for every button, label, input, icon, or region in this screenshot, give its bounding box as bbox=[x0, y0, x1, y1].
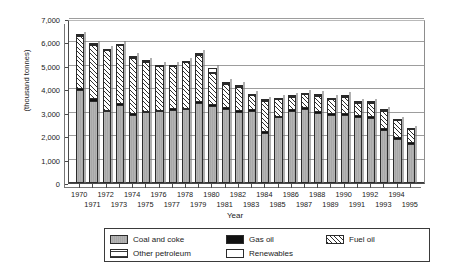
bar-segment bbox=[380, 130, 388, 183]
bar-segment bbox=[76, 36, 84, 89]
x-axis-tick-label: 1977 bbox=[164, 200, 180, 209]
swatch-gas-oil-icon bbox=[226, 235, 244, 244]
bar-segment bbox=[393, 139, 401, 184]
legend-label: Other petroleum bbox=[133, 249, 191, 258]
bar-segment bbox=[301, 94, 309, 107]
bar-segment bbox=[341, 115, 349, 183]
x-axis-tick-label: 1988 bbox=[309, 190, 325, 199]
x-axis-tickmark bbox=[278, 184, 279, 188]
x-axis-tickmark bbox=[264, 184, 265, 188]
bar-side-face bbox=[256, 91, 258, 183]
x-axis-tickmark bbox=[317, 184, 318, 188]
legend-label: Fuel oil bbox=[349, 235, 375, 244]
bar-column bbox=[129, 56, 137, 183]
bar-column bbox=[155, 65, 163, 183]
bar-segment bbox=[182, 109, 190, 183]
x-axis-tick-label: 1993 bbox=[375, 200, 391, 209]
bar-column bbox=[274, 98, 282, 183]
bar-side-face bbox=[217, 65, 219, 183]
bar-side-face bbox=[349, 92, 351, 183]
y-axis-tickmark bbox=[65, 90, 68, 91]
legend-item[interactable]: Other petroleum bbox=[110, 249, 191, 258]
x-axis-tick-label: 1991 bbox=[349, 200, 365, 209]
bar-segment bbox=[327, 115, 335, 183]
bar-segment bbox=[314, 96, 322, 112]
stacked-bar-chart: (thousand tonnes) 7,0006,0005,0004,0003,… bbox=[0, 0, 470, 275]
bar-segment bbox=[235, 112, 243, 183]
bar-side-face bbox=[124, 41, 126, 183]
bar-segment bbox=[288, 97, 296, 110]
bar-segment bbox=[407, 144, 415, 183]
bar-side-face bbox=[309, 90, 311, 183]
x-axis-tickmark bbox=[410, 184, 411, 188]
x-axis-tickmark bbox=[304, 184, 305, 188]
bar-segment bbox=[222, 109, 230, 184]
bar-segment bbox=[195, 55, 203, 101]
y-axis-tickmark bbox=[65, 161, 68, 162]
bar-side-face bbox=[150, 58, 152, 183]
gridline bbox=[69, 18, 424, 19]
y-axis-tickmark bbox=[65, 137, 68, 138]
bar-side-face bbox=[98, 41, 100, 183]
bar-segment bbox=[116, 105, 124, 183]
bar-side-face bbox=[230, 79, 232, 183]
x-axis-tick-label: 1987 bbox=[296, 200, 312, 209]
x-axis-tick-label: 1978 bbox=[177, 190, 193, 199]
bar-segment bbox=[274, 99, 282, 116]
bar-segment bbox=[222, 84, 230, 107]
bar-segment bbox=[76, 90, 84, 183]
x-axis-tickmark bbox=[198, 184, 199, 188]
x-axis-tickmark bbox=[119, 184, 120, 188]
bar-column bbox=[222, 82, 230, 183]
bar-column bbox=[288, 95, 296, 183]
x-axis-tickmark bbox=[225, 184, 226, 188]
legend-item[interactable]: Renewables bbox=[226, 249, 293, 258]
x-axis-tickmark bbox=[291, 184, 292, 188]
bar-segment bbox=[142, 112, 150, 183]
bar-side-face bbox=[375, 99, 377, 183]
bar-segment bbox=[407, 129, 415, 143]
legend-item[interactable]: Coal and coke bbox=[110, 235, 184, 244]
bar-column bbox=[76, 34, 84, 183]
x-axis-tickmark bbox=[92, 184, 93, 188]
x-axis-tick-label: 1990 bbox=[336, 190, 352, 199]
bar-column bbox=[354, 101, 362, 183]
x-axis-tick-label: 1984 bbox=[256, 190, 272, 199]
bar-side-face bbox=[203, 50, 205, 183]
bar-side-face bbox=[111, 46, 113, 183]
bar-column bbox=[341, 95, 349, 183]
x-axis-tickmark bbox=[238, 184, 239, 188]
y-axis-tickmark bbox=[65, 67, 68, 68]
legend-item[interactable]: Gas oil bbox=[226, 235, 274, 244]
y-axis-tick-label: 3,000 bbox=[41, 109, 60, 118]
x-axis-tick-label: 1974 bbox=[124, 190, 140, 199]
bar-segment bbox=[155, 66, 163, 111]
x-axis-tick-label: 1973 bbox=[111, 200, 127, 209]
bar-segment bbox=[393, 120, 401, 137]
bar-side-face bbox=[388, 107, 390, 183]
bar-side-face bbox=[322, 91, 324, 183]
bar-segment bbox=[380, 111, 388, 130]
bar-column bbox=[380, 109, 388, 183]
legend-item[interactable]: Fuel oil bbox=[326, 235, 375, 244]
bar-segment bbox=[261, 133, 269, 183]
x-axis-tickmark bbox=[397, 184, 398, 188]
swatch-other-petroleum-icon bbox=[110, 249, 128, 258]
bar-segment bbox=[129, 115, 137, 183]
bar-side-face bbox=[84, 32, 86, 183]
bar-column bbox=[314, 94, 322, 183]
bar-segment bbox=[367, 103, 375, 117]
y-axis-tick-label: 5,000 bbox=[41, 62, 60, 71]
x-axis-tick-label: 1972 bbox=[98, 190, 114, 199]
bar-column bbox=[169, 65, 177, 183]
chart-legend: Coal and cokeGas oilFuel oil Other petro… bbox=[104, 228, 430, 262]
y-axis-tick-label: 2,000 bbox=[41, 133, 60, 142]
x-axis-tick-label: 1979 bbox=[190, 200, 206, 209]
x-axis-tick-label: 1995 bbox=[402, 200, 418, 209]
bar-segment bbox=[195, 103, 203, 183]
x-axis-tickmark bbox=[159, 184, 160, 188]
x-axis-tick-label: 1985 bbox=[269, 200, 285, 209]
x-axis-tick-label: 1982 bbox=[230, 190, 246, 199]
y-axis-tickmark bbox=[65, 20, 68, 21]
bar-segment bbox=[129, 58, 137, 114]
